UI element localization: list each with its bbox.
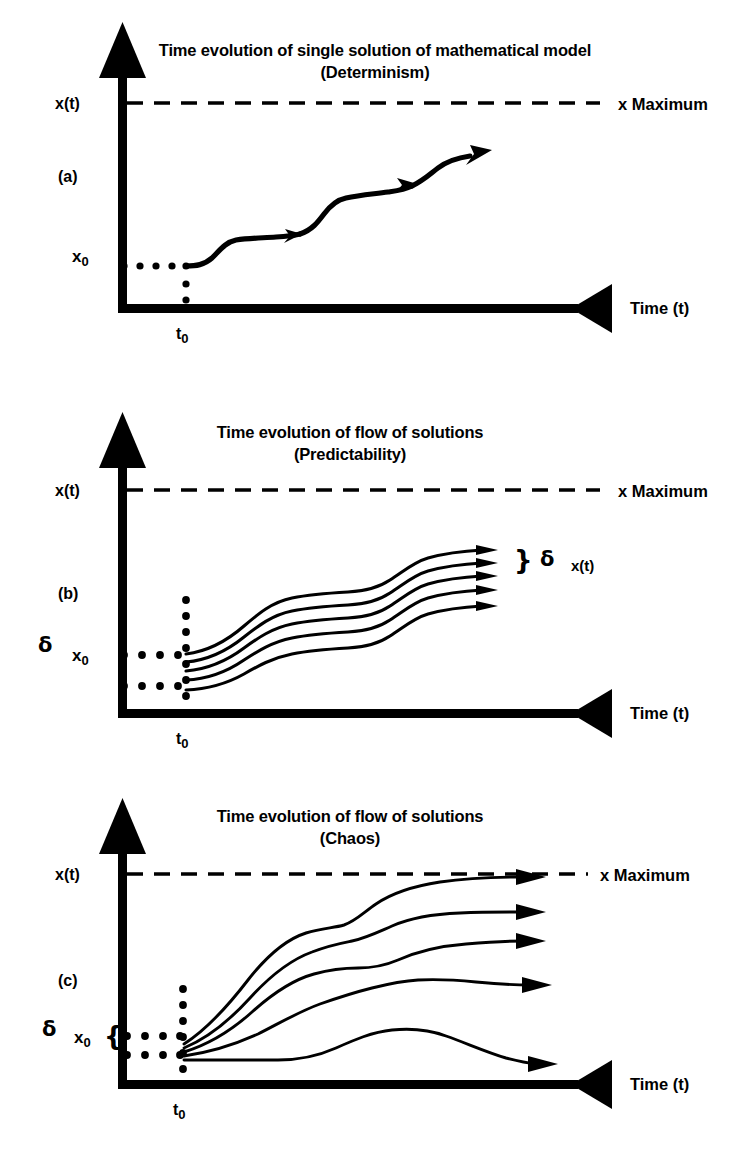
trajectory-c-1	[184, 877, 524, 1044]
panel-chaos: Time evolution of flow of solutions (Cha…	[0, 780, 741, 1163]
x-axis-label-c: Time (t)	[630, 1075, 689, 1094]
panel-label-a: (a)	[58, 168, 78, 186]
x-axis-b	[118, 689, 612, 738]
panel-label-c: (c)	[58, 972, 78, 990]
trajectory-b-1	[186, 550, 482, 654]
y-axis-label-b: x(t)	[55, 482, 80, 500]
delta-symbol-b: δ	[38, 633, 52, 657]
y-axis-label-a: x(t)	[55, 95, 80, 113]
x0-label-c: x0	[74, 1028, 91, 1050]
panel-predictability: Time evolution of flow of solutions (Pre…	[0, 390, 741, 780]
x0-dotted-line-a	[120, 262, 189, 269]
x0-upper-dotted-line-b	[120, 651, 182, 659]
x-maximum-label-b: x Maximum	[618, 482, 708, 501]
panel-determinism: Time evolution of single solution of mat…	[0, 0, 741, 390]
x-axis-a	[118, 284, 612, 333]
x0-upper-dotted-line-c	[123, 1032, 184, 1040]
x-axis-label-b: Time (t)	[630, 704, 689, 723]
t0-label-c: t0	[173, 1101, 186, 1122]
x0-label-c-sub: 0	[83, 1035, 90, 1050]
final-delta-symbol-b: δ	[540, 547, 554, 571]
trajectory-c-4	[184, 980, 530, 1056]
final-spread-label-b: x(t)	[571, 557, 594, 574]
trajectory-a	[186, 156, 470, 266]
x-maximum-label-c: x Maximum	[600, 866, 690, 885]
t0-dotted-line-b	[182, 596, 190, 700]
x0-label-a: x0	[72, 247, 89, 269]
delta-symbol-c: δ	[42, 1017, 56, 1041]
x-axis-label-a: Time (t)	[630, 299, 689, 318]
trajectory-arrowheads-b	[476, 545, 498, 611]
spread-brace-b: }	[514, 545, 533, 575]
trajectory-c-5	[184, 1029, 536, 1064]
trajectory-bundle-c	[184, 877, 536, 1064]
x-maximum-label-a: x Maximum	[618, 95, 708, 114]
t0-label-b-sub: 0	[181, 736, 188, 751]
x0-label-a-sub: 0	[81, 254, 88, 269]
panel-a-graphics	[0, 0, 741, 390]
t0-label-c-sub: 0	[178, 1107, 185, 1122]
trajectory-arrowheads-c	[516, 869, 558, 1072]
x0-lower-dotted-line-c	[123, 1051, 184, 1059]
t0-label-a-sub: 0	[181, 331, 188, 346]
y-axis-b	[99, 412, 146, 717]
spread-brace-c: {	[104, 1021, 123, 1051]
x0-label-b: x0	[72, 646, 89, 668]
panel-c-graphics	[0, 780, 741, 1163]
t0-dotted-line-a	[182, 280, 189, 303]
trajectory-bundle-b	[186, 550, 482, 690]
trajectory-b-3	[186, 576, 482, 671]
x0-label-b-sub: 0	[81, 653, 88, 668]
panel-label-b: (b)	[58, 585, 78, 603]
y-axis-label-c: x(t)	[55, 866, 80, 884]
t0-label-a: t0	[176, 325, 189, 346]
x0-lower-dotted-line-b	[120, 682, 182, 690]
t0-label-b: t0	[176, 730, 189, 751]
